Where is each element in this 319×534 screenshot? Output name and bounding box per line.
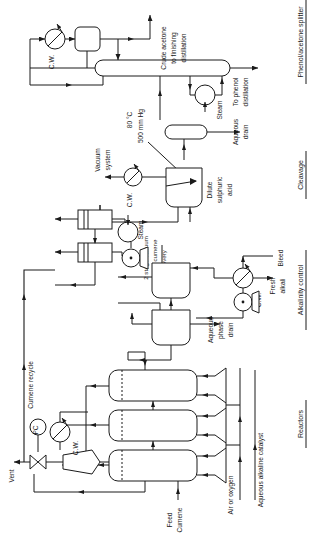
steam-label-flash: Steam	[137, 220, 144, 240]
stream-to-phenol: To phenol distillation	[230, 68, 258, 106]
dilute-acid-line2: sulphuric	[216, 176, 224, 203]
section-label-cleavage: Cleavage	[297, 160, 305, 190]
vacuum-system-line1: Vacuum	[94, 148, 101, 172]
reflux-drum	[75, 27, 100, 51]
crude-acetone-line1: Crude acetone	[160, 26, 167, 70]
alkali-pump	[234, 291, 259, 313]
knockout-separator	[63, 450, 100, 474]
bleed-label: Bleed	[277, 249, 284, 266]
cw-label-condenser: C.W.	[48, 55, 55, 69]
dilute-acid-line1: Dilute	[206, 181, 213, 198]
aq-phase-line3: drain	[227, 322, 234, 337]
aqueous-drain-line2: drain	[242, 124, 249, 139]
pfd-canvas: Phenol/acetone splitter Cleavage Alkalin…	[0, 0, 319, 534]
cw-label-cleavage: C.W.	[126, 193, 133, 207]
aqueous-phase-separator: Aqueous phase drain	[152, 310, 234, 345]
reactor-3	[109, 370, 197, 401]
dilute-acid-line3: acid	[226, 184, 233, 196]
air-oxygen-label: Air or oxygen	[227, 475, 235, 514]
vent-label: Vent	[8, 469, 15, 482]
vent-cooler: C.W.	[50, 418, 79, 455]
conditions-annotation: 80 °C 500 mm Hg	[126, 109, 180, 172]
aq-phase-line2: phase	[217, 321, 225, 339]
cw-label-reactor: C.W.	[72, 441, 79, 455]
drum-riser-arrow	[182, 144, 186, 150]
aqueous-catalyst-label: Aqueous alkaline catalyst	[257, 433, 265, 508]
fresh-alkali-line1: Fresh	[269, 277, 276, 294]
to-phenol-line1: To phenol	[232, 77, 240, 106]
steam-label-reboiler: Steam	[216, 100, 223, 120]
section-labels: Phenol/acetone splitter Cleavage Alkalin…	[297, 0, 306, 448]
crude-acetone-line3: distillation	[180, 33, 187, 62]
control-valve[interactable]	[30, 455, 46, 469]
fresh-alkali-line2: alkali	[279, 278, 286, 294]
flash-exchanger-2	[78, 243, 112, 262]
stream-crude-acetone: Crude acetone to finishing distillation	[160, 26, 187, 70]
splitter-reboiler: Steam	[188, 76, 224, 120]
aqueous-drain-line1: Aqueous	[232, 118, 240, 145]
bottom-feed-labels: Feed Cumene Air or oxygen Aqueous alkali…	[166, 433, 265, 533]
vacuum-system-line2: system	[104, 149, 112, 170]
pc-label: PC	[32, 425, 39, 434]
cleavage-condenser: C.W. Vacuum system	[94, 148, 166, 208]
aq-phase-line1: Aqueous	[207, 316, 215, 343]
pressure-controller[interactable]: PC	[30, 419, 46, 452]
flash-exchanger-1	[78, 210, 112, 229]
process-flow-diagram: Phenol/acetone splitter Cleavage Alkalin…	[0, 0, 319, 534]
column-feed-arrow	[158, 90, 162, 96]
section-label-alkalinity: Alkalinity control	[297, 264, 305, 315]
cumene-recycle-label: Cumene recycle	[27, 361, 35, 409]
overhead-condenser: C.W.	[45, 24, 65, 69]
to-phenol-line2: distillation	[242, 77, 249, 106]
reactor-1	[109, 450, 197, 481]
aqueous-separator-drum: Aqueous drain	[165, 118, 249, 145]
section-label-reactors: Reactors	[297, 409, 304, 438]
reactor-2	[109, 410, 197, 441]
flash-pump	[122, 247, 148, 269]
crude-acetone-line2: to finishing	[170, 32, 178, 64]
feed-cumene-line1: Feed	[166, 512, 173, 527]
temperature-label: 80 °C	[126, 111, 133, 128]
section-label-splitter-line1: Phenol/acetone splitter	[297, 6, 305, 78]
alkalinity-vessel	[152, 263, 190, 298]
feed-cumene-line2: Cumene	[176, 507, 183, 532]
pressure-label: 500 mm Hg	[137, 109, 145, 143]
cleavage-vessel	[166, 168, 202, 207]
